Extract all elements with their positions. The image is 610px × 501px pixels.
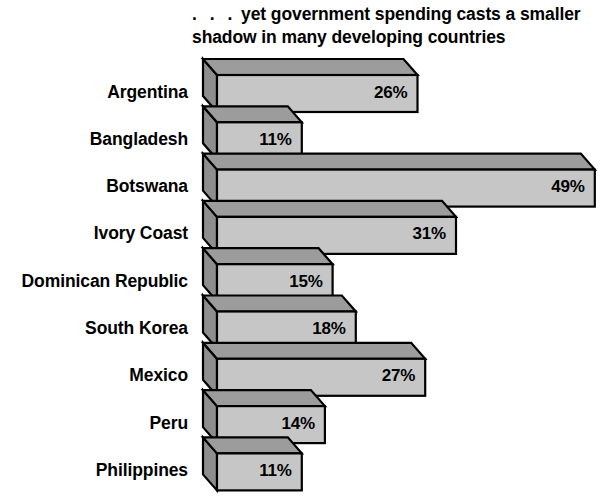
bar-value-label: 14% (205, 414, 315, 434)
bar-value-label: 11% (182, 130, 292, 150)
bar-value-label: 27% (305, 366, 415, 386)
bar-value-label: 26% (297, 83, 407, 103)
bar-top-face (203, 343, 425, 359)
bar-value-label: 15% (213, 272, 323, 292)
bar-top-face (203, 201, 456, 217)
bar-top-face (203, 437, 302, 453)
bar-top-face (203, 390, 325, 406)
bar-value-label: 49% (475, 177, 585, 197)
chart-container: . . . yet government spending casts a sm… (0, 0, 610, 501)
bar-top-face (203, 59, 418, 75)
bar-top-face (203, 106, 302, 122)
bar-value-label: 11% (182, 461, 292, 481)
bar-top-face (203, 154, 595, 170)
plot-area: 26%11%49%31%15%18%27%14%11% (0, 0, 610, 501)
bar-top-face (203, 296, 356, 312)
bar-top-face (203, 248, 333, 264)
bar-value-label: 31% (336, 224, 446, 244)
bar-value-label: 18% (236, 319, 346, 339)
